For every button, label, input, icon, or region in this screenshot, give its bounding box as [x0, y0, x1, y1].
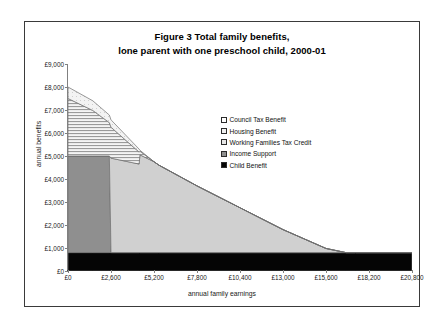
y-tick-label: £6,000: [44, 130, 64, 137]
legend-item-council[interactable]: Council Tax Benefit: [221, 114, 361, 125]
y-tick-label: £1,000: [44, 245, 64, 252]
legend-item-wftc[interactable]: Working Families Tax Credit: [221, 137, 361, 148]
legend-item-label: Council Tax Benefit: [230, 116, 286, 123]
y-tick-mark: [65, 64, 68, 65]
legend-item-child[interactable]: Child Benefit: [221, 160, 361, 171]
x-tick-label: £20,800: [400, 274, 423, 281]
y-tick-mark: [65, 87, 68, 88]
x-tick-mark: [197, 270, 198, 273]
x-tick-mark: [111, 270, 112, 273]
x-tick-mark: [412, 270, 413, 273]
figure-title-line-2: lone parent with one preschool child, 20…: [25, 44, 419, 58]
y-tick-label: £9,000: [44, 61, 64, 68]
legend-item-label: Child Benefit: [230, 162, 267, 169]
x-tick-label: £2,600: [101, 274, 121, 281]
y-tick-label: £3,000: [44, 199, 64, 206]
y-tick-label: £7,000: [44, 107, 64, 114]
x-tick-label: £7,800: [187, 274, 207, 281]
y-tick-label: £2,000: [44, 222, 64, 229]
y-tick-mark: [65, 110, 68, 111]
x-tick-mark: [240, 270, 241, 273]
legend-item-income[interactable]: Income Support: [221, 148, 361, 159]
y-tick-mark: [65, 156, 68, 157]
legend-item-housing[interactable]: Housing Benefit: [221, 125, 361, 136]
figure-title-line-1: Figure 3 Total family benefits,: [25, 30, 419, 44]
x-tick-mark: [154, 270, 155, 273]
legend-item-label: Housing Benefit: [230, 128, 277, 135]
figure-title: Figure 3 Total family benefits, lone par…: [25, 30, 419, 57]
x-tick-label: £5,200: [144, 274, 164, 281]
legend-item-label: Income Support: [230, 150, 277, 157]
y-tick-mark: [65, 225, 68, 226]
x-tick-label: £0: [64, 274, 71, 281]
y-tick-label: £4,000: [44, 176, 64, 183]
y-tick-mark: [65, 248, 68, 249]
x-tick-label: £10,400: [228, 274, 251, 281]
x-tick-mark: [283, 270, 284, 273]
area-series-child-benefit: [68, 253, 412, 271]
y-tick-label: £0: [57, 268, 64, 275]
figure-container: Figure 3 Total family benefits, lone par…: [24, 21, 420, 307]
legend-swatch-icon: [221, 151, 227, 157]
legend-swatch-icon: [221, 128, 227, 134]
x-tick-label: £15,600: [314, 274, 337, 281]
legend-item-label: Working Families Tax Credit: [230, 139, 312, 146]
y-tick-label: £8,000: [44, 84, 64, 91]
x-tick-label: £13,000: [271, 274, 294, 281]
chart-legend: Council Tax BenefitHousing BenefitWorkin…: [221, 114, 361, 171]
x-tick-mark: [68, 270, 69, 273]
y-axis-title: annual benefits: [35, 121, 42, 167]
legend-swatch-icon: [221, 162, 227, 168]
legend-swatch-icon: [221, 117, 227, 123]
x-tick-mark: [326, 270, 327, 273]
y-tick-mark: [65, 133, 68, 134]
legend-swatch-icon: [221, 139, 227, 145]
x-tick-label: £18,200: [357, 274, 380, 281]
x-tick-mark: [369, 270, 370, 273]
y-tick-label: £5,000: [44, 153, 64, 160]
y-tick-mark: [65, 202, 68, 203]
y-tick-mark: [65, 179, 68, 180]
x-axis-title: annual family earnings: [25, 290, 419, 297]
